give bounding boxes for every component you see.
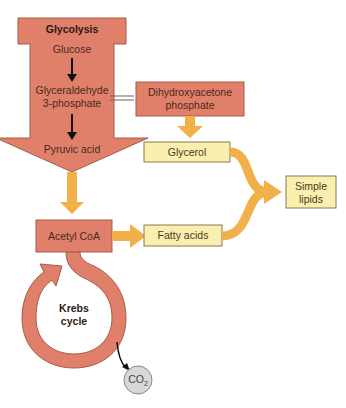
krebs-label-line1: Krebs <box>44 302 104 315</box>
g3p-label-line2: 3-phosphate <box>22 97 122 110</box>
acetyl-coa-label: Acetyl CoA <box>36 230 112 243</box>
simple-lipids-line1: Simple <box>286 180 336 193</box>
krebs-label-line2: cycle <box>44 315 104 328</box>
fatty-acids-label: Fatty acids <box>144 229 222 242</box>
glucose-label: Glucose <box>22 43 122 56</box>
simple-lipids-line2: lipids <box>286 193 336 206</box>
glycolysis-title: Glycolysis <box>22 23 122 36</box>
pyruvic-acid-label: Pyruvic acid <box>22 143 122 156</box>
dhap-label-line1: Dihydroxyacetone <box>136 86 244 99</box>
glycerol-label: Glycerol <box>144 146 230 159</box>
g3p-label-line1: Glyceraldehyde <box>22 84 122 97</box>
co2-label: CO2 <box>124 373 152 390</box>
dhap-label-line2: phosphate <box>136 99 244 112</box>
